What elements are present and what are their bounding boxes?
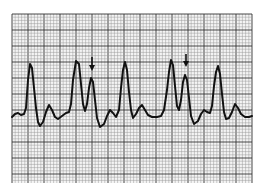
ecg-grid-and-trace: [0, 0, 268, 194]
ecg-strip: [12, 14, 252, 183]
